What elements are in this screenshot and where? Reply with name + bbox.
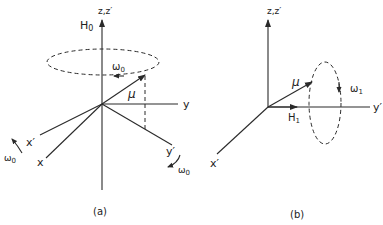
omega0-x-rotation-arrow bbox=[12, 139, 22, 153]
y-axis-label: y bbox=[183, 98, 190, 111]
panel-a: z,z′ H0 ω0 μ y y′ ω0 x′ ω0 x (a) bbox=[4, 6, 190, 217]
omega0-x-label: ω0 bbox=[4, 153, 16, 165]
x-prime-label: x′ bbox=[26, 136, 36, 149]
omega0-y-label: ω0 bbox=[178, 165, 190, 177]
h1-label: H1 bbox=[288, 112, 300, 125]
z-axis-label: z,z′ bbox=[98, 6, 112, 16]
omega0-label: ω0 bbox=[112, 61, 125, 74]
mu-vector bbox=[102, 75, 145, 104]
omega1-label: ω1 bbox=[350, 83, 363, 96]
x-prime-label-b: x′ bbox=[210, 157, 220, 170]
y-prime-axis bbox=[102, 104, 172, 145]
nutation-ellipse bbox=[309, 62, 341, 144]
precession-diagram: z,z′ H0 ω0 μ y y′ ω0 x′ ω0 x (a) z,z′ bbox=[0, 0, 383, 225]
mu-vector-b bbox=[268, 82, 312, 107]
caption-a: (a) bbox=[93, 206, 107, 217]
h0-label: H0 bbox=[80, 19, 93, 33]
caption-b: (b) bbox=[290, 209, 304, 220]
z-axis-label-b: z,z′ bbox=[267, 6, 281, 16]
y-prime-label-b: y′ bbox=[373, 101, 383, 114]
panel-b: z,z′ y′ H1 x′ ω1 μ (b) bbox=[210, 6, 383, 220]
x-prime-axis-b bbox=[217, 107, 268, 154]
mu-label-b: μ bbox=[291, 75, 300, 89]
precession-cone-ellipse bbox=[47, 49, 159, 75]
x-axis bbox=[46, 104, 102, 158]
x-prime-axis bbox=[40, 104, 102, 135]
mu-label: μ bbox=[127, 87, 136, 101]
y-prime-label: y′ bbox=[166, 145, 176, 158]
x-axis-label: x bbox=[37, 156, 44, 169]
